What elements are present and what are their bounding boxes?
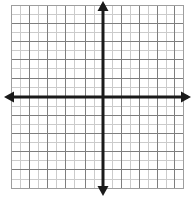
coordinate-grid-svg bbox=[0, 0, 194, 200]
coordinate-plane-figure bbox=[0, 0, 194, 200]
